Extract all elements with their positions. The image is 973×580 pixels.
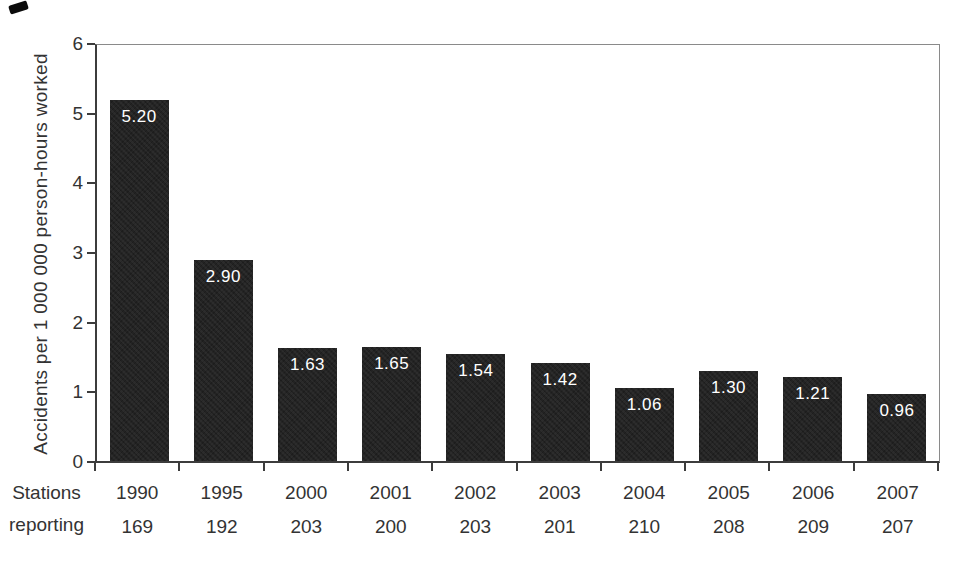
scan-artifact [8, 0, 29, 14]
bar-slot: 1.21 [771, 45, 855, 461]
stations-reporting-value: 200 [349, 516, 434, 538]
bar-value-label: 1.42 [531, 370, 590, 390]
bar-slot: 1.30 [686, 45, 770, 461]
x-tick-mark [94, 461, 96, 471]
stations-row-label-line1: Stations [0, 482, 93, 504]
year-label: 2001 [349, 482, 434, 504]
bar-value-label: 1.06 [615, 395, 674, 415]
x-tick-mark [853, 461, 855, 471]
year-label: 1990 [95, 482, 180, 504]
y-tick-label: 6 [49, 33, 83, 55]
x-axis-year-labels: 1990199520002001200220032004200520062007 [95, 482, 940, 504]
y-tick-label: 1 [49, 381, 83, 403]
year-label: 2000 [264, 482, 349, 504]
bar-slot: 1.42 [518, 45, 602, 461]
bar-slot: 0.96 [855, 45, 939, 461]
stations-row-label-line2: reporting [0, 514, 93, 536]
bar-2002: 1.54 [446, 354, 505, 461]
y-tick-label: 2 [49, 312, 83, 334]
bar-value-label: 0.96 [867, 401, 926, 421]
bar-slot: 5.20 [97, 45, 181, 461]
year-label: 2007 [856, 482, 941, 504]
x-tick-mark [768, 461, 770, 471]
bar-value-label: 1.63 [278, 355, 337, 375]
stations-reporting-value: 201 [518, 516, 603, 538]
stations-reporting-value: 209 [771, 516, 856, 538]
bar-slot: 1.54 [434, 45, 518, 461]
x-tick-mark [684, 461, 686, 471]
stations-reporting-value: 207 [856, 516, 941, 538]
stations-reporting-value: 203 [433, 516, 518, 538]
bar-2001: 1.65 [362, 347, 421, 461]
plot-area: 5.202.901.631.651.541.421.061.301.210.96 [95, 44, 940, 463]
year-label: 1995 [180, 482, 265, 504]
bar-value-label: 1.30 [699, 378, 758, 398]
y-tick-mark [87, 113, 95, 115]
bar-1995: 2.90 [194, 260, 253, 461]
y-tick-mark [87, 182, 95, 184]
bar-slot: 2.90 [181, 45, 265, 461]
x-tick-mark [600, 461, 602, 471]
y-tick-label: 3 [49, 242, 83, 264]
y-tick-mark [87, 322, 95, 324]
year-label: 2004 [602, 482, 687, 504]
year-label: 2005 [687, 482, 772, 504]
y-tick-label: 4 [49, 172, 83, 194]
y-tick-mark [87, 43, 95, 45]
stations-reporting-value: 192 [180, 516, 265, 538]
stations-reporting-values: 169192203200203201210208209207 [95, 516, 940, 538]
year-label: 2006 [771, 482, 856, 504]
bar-2007: 0.96 [867, 394, 926, 461]
y-tick-label: 0 [49, 451, 83, 473]
stations-reporting-value: 203 [264, 516, 349, 538]
bar-value-label: 1.21 [783, 384, 842, 404]
bar-slot: 1.65 [350, 45, 434, 461]
y-tick-label: 5 [49, 103, 83, 125]
bar-2000: 1.63 [278, 348, 337, 461]
x-tick-mark [937, 461, 939, 471]
bar-2006: 1.21 [783, 377, 842, 461]
x-tick-mark [431, 461, 433, 471]
bar-slot: 1.63 [265, 45, 349, 461]
year-label: 2003 [518, 482, 603, 504]
bar-value-label: 1.65 [362, 354, 421, 374]
stations-reporting-value: 169 [95, 516, 180, 538]
bar-value-label: 1.54 [446, 361, 505, 381]
y-tick-mark [87, 252, 95, 254]
bar-2003: 1.42 [531, 363, 590, 461]
stations-reporting-value: 208 [687, 516, 772, 538]
x-tick-mark [516, 461, 518, 471]
x-tick-mark [263, 461, 265, 471]
bars-container: 5.202.901.631.651.541.421.061.301.210.96 [97, 45, 939, 461]
x-tick-mark [178, 461, 180, 471]
bar-slot: 1.06 [602, 45, 686, 461]
y-tick-mark [87, 391, 95, 393]
bar-1990: 5.20 [110, 100, 169, 461]
bar-2005: 1.30 [699, 371, 758, 461]
bar-value-label: 2.90 [194, 267, 253, 287]
stations-reporting-value: 210 [602, 516, 687, 538]
bar-value-label: 5.20 [110, 107, 169, 127]
year-label: 2002 [433, 482, 518, 504]
bar-2004: 1.06 [615, 388, 674, 461]
accidents-bar-chart: Accidents per 1 000 000 person-hours wor… [0, 0, 973, 580]
x-tick-mark [347, 461, 349, 471]
